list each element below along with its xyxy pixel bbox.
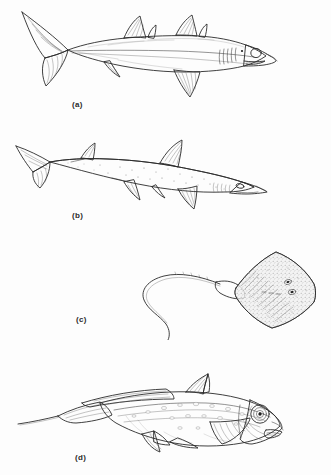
chimaera-icon <box>14 372 314 454</box>
shark-icon <box>8 4 288 104</box>
figure-panel-b <box>8 134 288 212</box>
figure-panel-c <box>108 248 328 340</box>
ray-icon <box>108 248 328 340</box>
dogfish-icon <box>8 134 288 212</box>
figure-label-b: (b) <box>72 211 83 220</box>
figure-label-d: (d) <box>75 453 86 462</box>
figure-panel-a <box>8 4 288 104</box>
figure-panel-d <box>14 372 314 454</box>
figure-plate: (a) <box>0 0 331 475</box>
figure-label-c: (c) <box>76 315 87 324</box>
figure-label-a: (a) <box>72 100 83 109</box>
